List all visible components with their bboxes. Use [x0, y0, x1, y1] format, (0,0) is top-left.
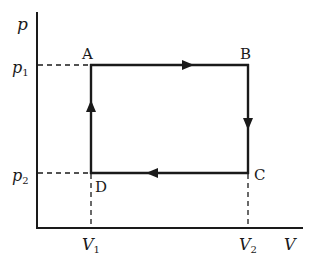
arrow-right-icon	[182, 60, 194, 70]
p2-label: p2	[12, 166, 29, 186]
point-b-label: B	[240, 45, 251, 63]
v2-label: V2	[239, 235, 257, 255]
point-a-label: A	[81, 45, 93, 63]
pv-diagram: p V p1 p2 V1 V2 A B C D	[0, 0, 311, 258]
v1-label: V1	[82, 235, 100, 255]
point-c-label: C	[254, 166, 265, 184]
v-axis-label: V	[284, 235, 297, 254]
p-axis-label: p	[17, 14, 28, 34]
p1-label: p1	[12, 58, 29, 78]
arrow-up-icon	[86, 100, 96, 112]
arrow-left-icon	[146, 168, 158, 178]
point-d-label: D	[95, 178, 107, 196]
arrow-down-icon	[243, 118, 253, 130]
